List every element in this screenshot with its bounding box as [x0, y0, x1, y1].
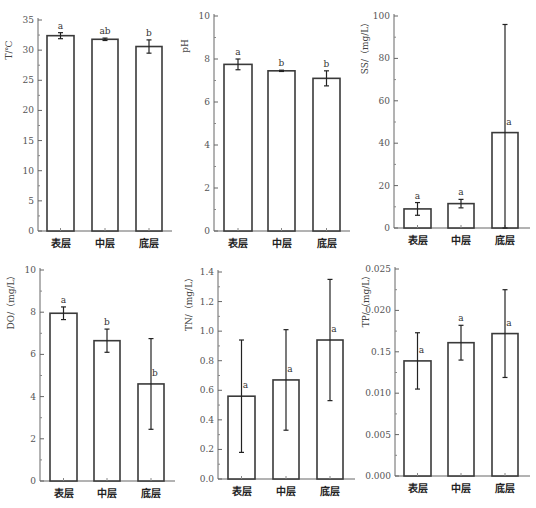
significance-letter: a — [458, 187, 464, 197]
x-category-label: 表层 — [231, 485, 252, 497]
y-tick-label: 35 — [23, 15, 35, 25]
x-category-label: 底层 — [495, 482, 515, 494]
y-tick-label: 0 — [204, 226, 210, 236]
significance-letter: b — [146, 28, 152, 38]
y-tick-label: 20 — [379, 181, 391, 191]
significance-letter: ab — [99, 26, 110, 36]
y-axis-title: TN/（mg/L） — [184, 273, 194, 331]
x-category-label: 表层 — [407, 234, 428, 246]
significance-letter: b — [152, 368, 158, 378]
significance-letter: a — [506, 117, 512, 127]
x-category-label: 底层 — [139, 237, 159, 249]
y-tick-label: 10 — [199, 11, 211, 21]
y-tick-label: 6 — [30, 349, 36, 359]
y-tick-label: 60 — [379, 96, 391, 106]
bar — [136, 47, 162, 231]
x-category-label: 中层 — [451, 234, 471, 246]
y-axis-title: DO/（mg/L） — [6, 271, 16, 330]
x-category-label: 中层 — [97, 487, 117, 499]
x-category-label: 中层 — [272, 237, 292, 249]
y-tick-label: 0.8 — [200, 356, 215, 366]
bar — [94, 341, 120, 481]
y-tick-label: 1.0 — [200, 326, 215, 336]
bar — [224, 64, 252, 231]
y-tick-label: 80 — [379, 53, 391, 63]
significance-letter: a — [243, 380, 249, 390]
y-tick-label: 8 — [30, 307, 36, 317]
x-category-label: 表层 — [227, 237, 248, 249]
y-tick-label: 10 — [23, 166, 35, 176]
significance-letter: b — [279, 58, 285, 68]
x-category-label: 底层 — [317, 237, 337, 249]
x-category-label: 表层 — [50, 237, 71, 249]
bar — [92, 39, 118, 231]
y-tick-label: 6 — [204, 97, 210, 107]
y-tick-label: 8 — [204, 54, 210, 64]
bar — [50, 313, 77, 481]
significance-letter: a — [287, 364, 293, 374]
x-category-label: 底层 — [141, 487, 161, 499]
y-tick-label: 0.15 — [371, 347, 391, 357]
y-tick-label: 0.000 — [365, 471, 391, 481]
y-tick-label: 2 — [204, 183, 210, 193]
y-axis-title: pH — [180, 39, 190, 53]
bar-chart-5: 0.0000.0050.0100.150.0200.025TP/（mg/L）a表… — [361, 264, 530, 494]
y-tick-label: 0.0 — [200, 474, 215, 484]
y-axis-title: SS/（mg/L） — [360, 18, 370, 75]
bar — [268, 71, 295, 231]
y-tick-label: 0 — [30, 476, 36, 486]
significance-letter: b — [104, 317, 110, 327]
bar — [448, 343, 474, 476]
x-category-label: 中层 — [276, 485, 296, 497]
y-tick-label: 10 — [25, 265, 37, 275]
significance-letter: a — [415, 191, 421, 201]
y-tick-label: 5 — [28, 196, 34, 206]
x-category-label: 表层 — [407, 482, 428, 494]
bar — [47, 36, 74, 231]
bar-chart-3: 0246810DO/（mg/L）a表层b中层b底层 — [6, 265, 175, 499]
y-axis-title: TP/（mg/L） — [361, 271, 371, 327]
y-tick-label: 1.2 — [200, 297, 214, 307]
y-tick-label: 2 — [30, 434, 36, 444]
significance-letter: a — [61, 295, 67, 305]
x-category-label: 中层 — [451, 482, 471, 494]
y-tick-label: 100 — [373, 11, 390, 21]
significance-letter: b — [324, 59, 330, 69]
y-tick-label: 1.4 — [200, 267, 215, 277]
y-tick-label: 0 — [28, 226, 34, 236]
bar-chart-2: 020406080100SS/（mg/L）a表层a中层a底层 — [360, 11, 530, 246]
figure-panels: 05101520253035T/℃a表层ab中层b底层0246810pHa表层b… — [0, 0, 536, 508]
y-tick-label: 4 — [30, 392, 36, 402]
x-category-label: 底层 — [495, 234, 515, 246]
y-tick-label: 0.4 — [200, 415, 215, 425]
y-tick-label: 40 — [379, 138, 391, 148]
y-tick-label: 4 — [204, 140, 210, 150]
y-axis-title: T/℃ — [4, 40, 14, 59]
y-tick-label: 25 — [23, 75, 35, 85]
x-category-label: 中层 — [95, 237, 115, 249]
bar-chart-4: 0.00.20.40.60.81.01.21.4TN/（mg/L）a表层a中层a… — [184, 267, 355, 497]
bar-chart-0: 05101520253035T/℃a表层ab中层b底层 — [4, 15, 172, 249]
y-tick-label: 0.005 — [365, 430, 391, 440]
x-category-label: 表层 — [53, 487, 74, 499]
y-tick-label: 30 — [23, 45, 35, 55]
significance-letter: a — [419, 345, 425, 355]
y-tick-label: 15 — [23, 136, 35, 146]
y-tick-label: 20 — [23, 105, 35, 115]
significance-letter: a — [458, 313, 464, 323]
figure-canvas: 05101520253035T/℃a表层ab中层b底层0246810pHa表层b… — [0, 0, 536, 508]
significance-letter: a — [58, 21, 64, 31]
y-tick-label: 0.010 — [365, 388, 391, 398]
bar-chart-1: 0246810pHa表层b中层b底层 — [180, 11, 350, 249]
y-tick-label: 0.2 — [200, 444, 214, 454]
bar — [313, 78, 340, 231]
y-tick-label: 0.6 — [200, 385, 215, 395]
y-tick-label: 0 — [384, 223, 390, 233]
significance-letter: a — [331, 324, 337, 334]
significance-letter: a — [235, 47, 241, 57]
x-category-label: 底层 — [320, 485, 340, 497]
significance-letter: a — [506, 318, 512, 328]
